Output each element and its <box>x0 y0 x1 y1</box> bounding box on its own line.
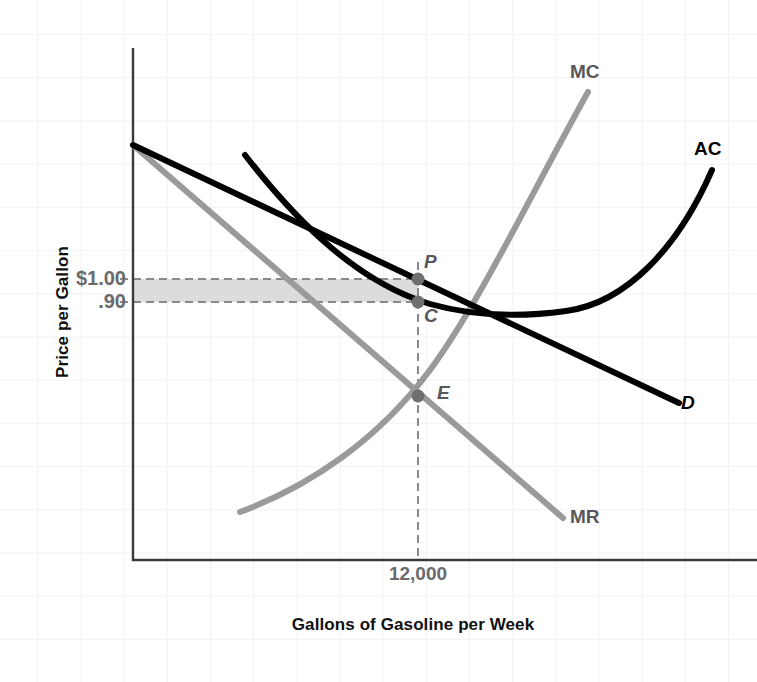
curve-mr <box>133 145 563 518</box>
point-marker-e <box>412 390 425 403</box>
economics-graph-figure: Price per Gallon Gallons of Gasoline per… <box>0 0 757 682</box>
point-label-p: P <box>424 251 437 273</box>
x-axis-title: Gallons of Gasoline per Week <box>133 615 693 635</box>
curve-label-mc: MC <box>570 61 600 83</box>
y-tick-label-0-90: .90 <box>0 290 126 313</box>
curve-d <box>133 145 679 403</box>
point-marker-c <box>412 296 425 309</box>
curve-label-mr: MR <box>570 506 600 528</box>
curve-label-d: D <box>681 392 695 414</box>
point-label-e: E <box>437 382 450 404</box>
curve-label-ac: AC <box>694 138 721 160</box>
point-label-c: C <box>424 305 438 327</box>
x-tick-label-12000: 12,000 <box>348 563 488 585</box>
point-marker-p <box>412 273 425 286</box>
y-tick-label-1-00: $1.00 <box>0 267 126 290</box>
